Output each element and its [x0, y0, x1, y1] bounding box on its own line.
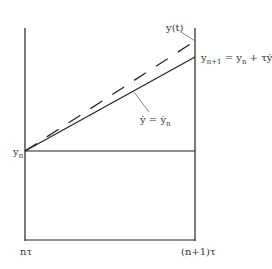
yt-leader-line [181, 32, 195, 41]
euler-step-line [25, 57, 195, 151]
euler-method-diagram: y(t) yn+1 = yn + τẏn ẏ = ẏn yn nτ (n+1)τ [0, 0, 272, 269]
x-right-label: (n+1)τ [181, 246, 216, 257]
ynext-formula-label: yn+1 = yn + τẏn [200, 52, 272, 66]
x-left-label: nτ [20, 246, 32, 257]
yn-label: yn [12, 146, 24, 160]
slope-label: ẏ = ẏn [139, 114, 171, 128]
slope-leader-line [134, 92, 149, 112]
yt-label: y(t) [165, 22, 184, 33]
exact-solution-dashed-line [25, 41, 195, 151]
